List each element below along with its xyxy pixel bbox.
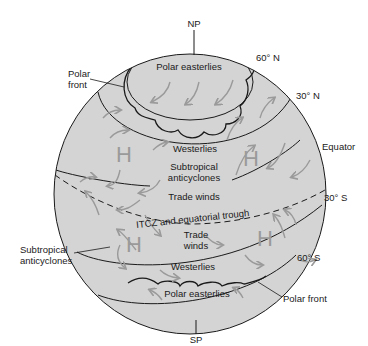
label-equator: Equator (322, 141, 355, 152)
label-subtropical-line2: anticyclones (168, 172, 221, 183)
circulation-diagram: H H H H Polar easterlies Westerlies Subt… (0, 0, 368, 346)
label-north-pole: NP (187, 18, 200, 29)
label-south-westerlies: Westerlies (171, 261, 215, 272)
label-30s: 30° S (324, 192, 347, 203)
label-south-polar-easterlies: Polar easterlies (164, 288, 230, 299)
label-north-polar-easterlies: Polar easterlies (156, 61, 222, 72)
high-pressure-sw: H (126, 232, 142, 257)
label-subtropical-line1: Subtropical (170, 161, 218, 172)
label-south-trade-line2: winds (183, 240, 209, 251)
high-pressure-nw: H (116, 142, 132, 167)
label-60n: 60° N (256, 52, 280, 63)
high-pressure-se: H (257, 226, 273, 251)
high-pressure-ne: H (243, 146, 259, 171)
label-subtropical-south-line1: Subtropical (20, 244, 68, 255)
label-subtropical-south-line2: anticyclones (20, 255, 73, 266)
label-south-trade-line1: Trade (184, 229, 208, 240)
label-30n: 30° N (296, 90, 320, 101)
label-south-pole: SP (190, 334, 203, 345)
label-north-trade-winds: Trade winds (168, 191, 220, 202)
label-polar-front-north-line2: front (68, 79, 87, 90)
label-polar-front-north-line1: Polar (68, 68, 90, 79)
label-60s: 60° S (297, 252, 320, 263)
label-north-westerlies: Westerlies (173, 143, 217, 154)
label-polar-front-south: Polar front (283, 293, 327, 304)
